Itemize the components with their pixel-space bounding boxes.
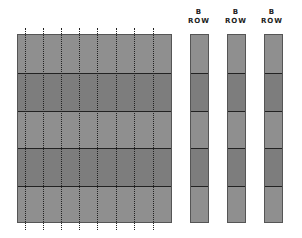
grid-row-2 — [18, 73, 171, 111]
column-cell — [228, 73, 245, 111]
column-cell — [265, 73, 282, 111]
b-row-column-2 — [227, 34, 246, 223]
label-line-2: ROW — [216, 17, 256, 26]
dotted-line — [43, 28, 44, 230]
column-cell — [265, 111, 282, 148]
column-cell — [265, 148, 282, 186]
dotted-line — [79, 28, 80, 230]
column-cell — [191, 35, 208, 73]
column-label-1: B ROW — [179, 8, 219, 26]
column-cell — [191, 111, 208, 148]
dotted-line — [134, 28, 135, 230]
b-row-column-3 — [264, 34, 283, 223]
dotted-line — [25, 28, 26, 230]
column-cell — [228, 35, 245, 73]
dotted-line — [97, 28, 98, 230]
label-line-1: B — [216, 8, 256, 17]
column-cell — [191, 186, 208, 222]
grid-row-1 — [18, 35, 171, 73]
grid-row-4 — [18, 148, 171, 186]
dotted-line — [116, 28, 117, 230]
label-line-2: ROW — [252, 17, 292, 26]
grid-row-3 — [18, 111, 171, 148]
column-cell — [191, 148, 208, 186]
label-line-1: B — [252, 8, 292, 17]
main-grid — [17, 34, 172, 223]
dotted-line — [61, 28, 62, 230]
column-label-2: B ROW — [216, 8, 256, 26]
b-row-column-1 — [190, 34, 209, 223]
label-line-1: B — [179, 8, 219, 17]
column-cell — [265, 186, 282, 222]
column-cell — [228, 186, 245, 222]
column-cell — [228, 148, 245, 186]
dotted-line — [153, 28, 154, 230]
column-cell — [191, 73, 208, 111]
column-cell — [265, 35, 282, 73]
column-label-3: B ROW — [252, 8, 292, 26]
column-cell — [228, 111, 245, 148]
label-line-2: ROW — [179, 17, 219, 26]
grid-row-5 — [18, 186, 171, 222]
